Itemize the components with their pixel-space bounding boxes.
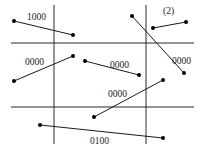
segment-code-label: 0100	[90, 136, 109, 146]
endpoint-dot	[130, 14, 134, 18]
figure-tag: (2)	[163, 6, 174, 17]
endpoint-dot	[71, 33, 75, 37]
endpoint-dot	[12, 79, 16, 83]
endpoint-dot	[92, 115, 96, 119]
endpoint-dot	[38, 123, 42, 127]
endpoint-dot	[151, 26, 155, 30]
segment-1: 1000	[12, 12, 75, 37]
segment-3: 0000	[83, 59, 141, 77]
segment-2: 0000	[12, 54, 75, 83]
segment-5	[151, 20, 188, 30]
endpoint-dot	[182, 71, 186, 75]
endpoint-dot	[12, 19, 16, 23]
segment-code-label: 0000	[172, 56, 191, 66]
segment-code-label: 1000	[27, 12, 46, 22]
endpoint-dot	[137, 73, 141, 77]
segment-grid-diagram: 1000 0000 0000 0000 0000 0100	[0, 0, 201, 157]
segment-6: 0000	[92, 78, 165, 119]
segment-code-label: 0000	[110, 60, 129, 70]
endpoint-dot	[161, 136, 165, 140]
endpoint-dot	[161, 78, 165, 82]
segment-code-label: 0000	[25, 57, 44, 67]
segment-code-label: 0000	[108, 89, 127, 99]
endpoint-dot	[184, 20, 188, 24]
endpoint-dot	[83, 59, 87, 63]
endpoint-dot	[71, 54, 75, 58]
